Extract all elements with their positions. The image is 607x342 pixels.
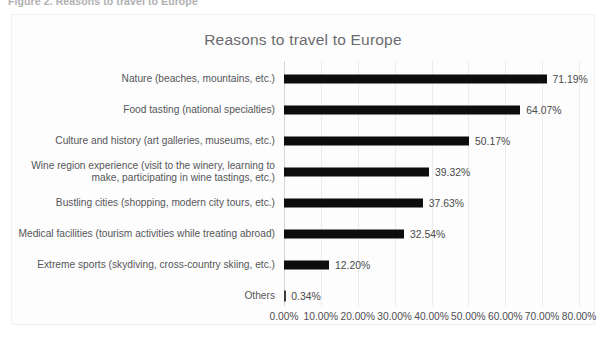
bar-row: Bustling cities (shopping, modern city t… (284, 187, 579, 218)
chart-title: Reasons to travel to Europe (12, 31, 594, 49)
bar-value-label: 32.54% (404, 228, 445, 239)
category-label: Nature (beaches, mountains, etc.) (13, 72, 275, 84)
bar-value-label: 50.17% (469, 135, 510, 146)
plot-area: Nature (beaches, mountains, etc.)71.19%F… (284, 61, 579, 306)
x-tick-label: 40.00% (414, 311, 449, 322)
bar-value-label: 71.19% (547, 73, 588, 84)
bar[interactable] (284, 260, 329, 269)
x-tick-label: 10.00% (304, 311, 339, 322)
category-label: Bustling cities (shopping, modern city t… (13, 196, 275, 208)
x-axis: 0.00%10.00%20.00%30.00%40.00%50.00%60.00… (284, 311, 579, 327)
bar-value-label: 39.32% (429, 166, 470, 177)
bar-row: Nature (beaches, mountains, etc.)71.19% (284, 63, 579, 94)
bar-row: Others0.34% (284, 280, 579, 311)
category-label: Food tasting (national specialties) (13, 103, 275, 115)
x-tick-label: 50.00% (451, 311, 486, 322)
bar[interactable] (284, 167, 429, 176)
bar-row: Medical facilities (tourism activities w… (284, 218, 579, 249)
category-label: Culture and history (art galleries, muse… (13, 134, 275, 146)
bar-row: Wine region experience (visit to the win… (284, 156, 579, 187)
bar[interactable] (284, 105, 520, 114)
x-tick-label: 30.00% (377, 311, 412, 322)
x-tick-label: 0.00% (270, 311, 299, 322)
bar-value-label: 64.07% (520, 104, 561, 115)
category-label: Extreme sports (skydiving, cross-country… (13, 258, 275, 270)
bar-row: Culture and history (art galleries, muse… (284, 125, 579, 156)
chart-container: Reasons to travel to Europe Nature (beac… (11, 14, 595, 325)
bar-row: Food tasting (national specialties)64.07… (284, 94, 579, 125)
category-label: Medical facilities (tourism activities w… (13, 227, 275, 239)
gridline-8 (579, 61, 580, 306)
bar-row: Extreme sports (skydiving, cross-country… (284, 249, 579, 280)
bar-value-label: 37.63% (423, 197, 464, 208)
x-tick-label: 60.00% (488, 311, 523, 322)
x-tick-label: 70.00% (525, 311, 560, 322)
bar-rows: Nature (beaches, mountains, etc.)71.19%F… (284, 61, 579, 306)
bar-value-label: 12.20% (329, 259, 370, 270)
figure-caption: Figure 2. Reasons to travel to Europe (8, 0, 198, 7)
bar[interactable] (284, 198, 423, 207)
x-tick-label: 20.00% (340, 311, 375, 322)
bar-value-label: 0.34% (285, 290, 320, 301)
bar[interactable] (284, 229, 404, 238)
bar[interactable] (284, 136, 469, 145)
bar[interactable] (284, 74, 547, 83)
x-tick-label: 80.00% (562, 311, 597, 322)
category-label: Wine region experience (visit to the win… (13, 159, 275, 184)
category-label: Others (13, 289, 275, 301)
